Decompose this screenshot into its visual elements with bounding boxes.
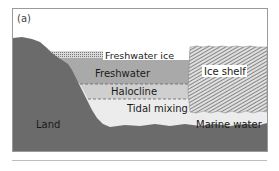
- freshwater-ice-label: Freshwater ice: [105, 50, 174, 61]
- land-label: Land: [36, 119, 60, 130]
- estuary-diagram: (a) Freshwater ice Freshwater Halocline …: [0, 0, 279, 171]
- marine-water-label: Marine water: [196, 119, 263, 130]
- ice-shelf: [188, 46, 267, 113]
- freshwater-label: Freshwater: [95, 68, 151, 79]
- halocline-label: Halocline: [111, 86, 157, 97]
- ice-shelf-label: Ice shelf: [204, 66, 246, 77]
- tidal-mixing-label: Tidal mixing: [126, 103, 188, 114]
- panel-label: (a): [17, 13, 31, 24]
